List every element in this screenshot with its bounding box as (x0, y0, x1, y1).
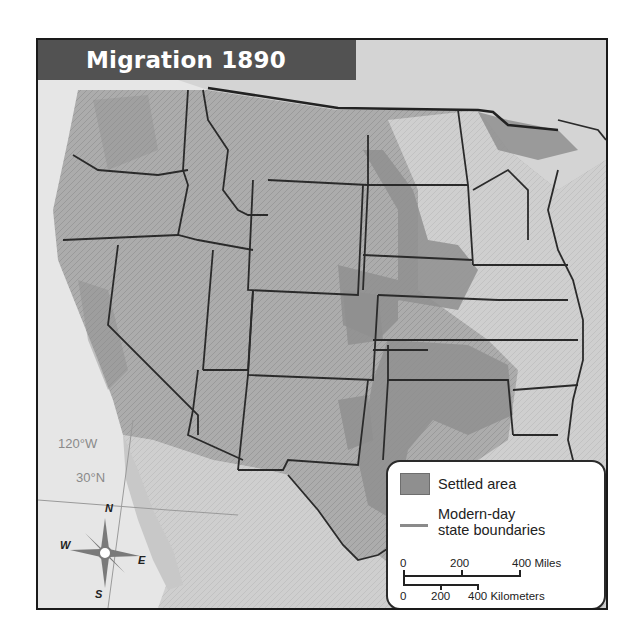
legend: Settled area Modern-day state boundaries… (386, 460, 606, 610)
map-frame: Migration 1890 120°W 30°N N W E S Settle… (36, 38, 608, 610)
compass-south-label: S (95, 588, 102, 600)
compass-west-label: W (60, 539, 70, 551)
boundaries-label-line1: Modern-day (438, 507, 515, 522)
map-title: Migration 1890 (38, 40, 356, 80)
scale-tick (519, 570, 521, 576)
compass-star-icon (60, 508, 150, 598)
boundaries-label-line2: state boundaries (438, 523, 545, 538)
scale-km-0: 0 (400, 590, 406, 602)
compass-rose: N W E S (60, 508, 150, 598)
scale-km-400: 400 Kilometers (468, 590, 545, 602)
state-boundary-swatch (400, 524, 428, 527)
settled-area-label: Settled area (438, 477, 516, 492)
scale-tick (461, 570, 463, 576)
compass-east-label: E (138, 554, 145, 566)
latitude-label: 30°N (76, 470, 105, 485)
longitude-label: 120°W (58, 436, 97, 451)
compass-north-label: N (105, 502, 113, 514)
settled-area-swatch (400, 473, 430, 495)
scale-miles-200: 200 (450, 557, 469, 569)
scale-miles-400: 400 Miles (512, 557, 561, 569)
scale-miles-0: 0 (400, 557, 406, 569)
scale-tick (403, 570, 405, 584)
scale-km-200: 200 (431, 590, 450, 602)
